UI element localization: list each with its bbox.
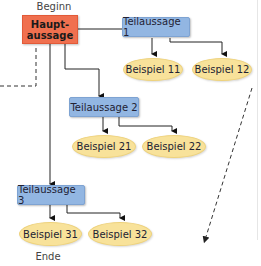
example-31: Beispiel 31 [19,222,82,246]
example-22: Beispiel 22 [142,135,206,158]
example-11: Beispiel 11 [123,58,183,81]
main-statement-node: Haupt- aussage [22,15,78,44]
sub-statement-3: Teilaussage 3 [17,185,85,205]
example-12: Beispiel 12 [192,58,252,81]
sub-statement-1: Teilaussage 1 [122,17,190,37]
main-statement-line1: Haupt- [31,19,69,30]
start-label: Beginn [34,1,74,12]
example-21: Beispiel 21 [72,135,136,158]
example-32: Beispiel 32 [88,222,152,246]
end-label: Ende [28,251,68,262]
sub-statement-2: Teilaussage 2 [69,97,139,117]
main-statement-line2: aussage [27,30,73,41]
